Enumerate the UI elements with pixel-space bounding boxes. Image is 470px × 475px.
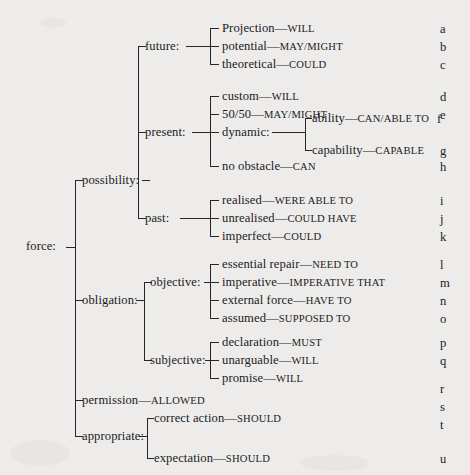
letter-s: s <box>440 400 445 415</box>
em-dash: — <box>267 39 280 53</box>
em-dash: — <box>213 451 226 465</box>
leaf-i-modal: WERE ABLE TO <box>275 195 354 206</box>
subjective-tick-q <box>210 360 219 361</box>
leaf-h: no obstacle—CAN <box>222 160 316 173</box>
subjective-tick-p <box>210 342 219 343</box>
node-possibility: possibility: <box>82 174 139 187</box>
leaf-r-term: promise <box>222 371 263 385</box>
leaf-n-term: external force <box>222 293 293 307</box>
em-dash: — <box>363 143 376 157</box>
appropriate-tick-u <box>147 458 154 459</box>
leaf-l-modal: NEED TO <box>312 259 358 270</box>
subjective-tick-r <box>210 378 219 379</box>
leaf-f: ability—CAN/ABLE TO <box>312 112 429 125</box>
leaf-j: unrealised—COULD HAVE <box>222 212 357 225</box>
em-dash: — <box>271 229 284 243</box>
objective-tick-l <box>210 264 219 265</box>
leaf-c: theoretical—COULD <box>222 58 326 71</box>
leaf-i: realised—WERE ABLE TO <box>222 194 353 207</box>
em-dash: — <box>279 353 292 367</box>
leaf-a-modal: WILL <box>287 23 314 34</box>
leaf-p: declaration—MUST <box>222 336 322 349</box>
leaf-a-term: Projection <box>222 21 275 35</box>
leaf-g-term: capability <box>312 143 363 157</box>
past-tick-k <box>210 236 219 237</box>
node-permission-modal: ALLOWED <box>151 395 205 406</box>
letter-d: d <box>440 90 446 105</box>
leaf-q-modal: WILL <box>291 355 318 366</box>
dynamic-lead <box>272 132 305 133</box>
leaf-b-modal: MAY/MIGHT <box>280 41 343 52</box>
leaf-g-modal: CAPABLE <box>375 145 424 156</box>
letter-l: l <box>440 258 444 273</box>
present-tick-dynamic <box>210 132 219 133</box>
leaf-h-modal: CAN <box>293 161 316 172</box>
objective-tick-o <box>210 318 219 319</box>
future-lead <box>186 46 210 47</box>
em-dash: — <box>138 393 151 407</box>
em-dash: — <box>262 193 275 207</box>
leaf-k-modal: COULD <box>284 231 322 242</box>
leaf-u-modal: SHOULD <box>226 453 270 464</box>
leaf-k: imperfect—COULD <box>222 230 321 243</box>
leaf-m: imperative—IMPERATIVE THAT <box>222 276 385 289</box>
present-lead <box>192 132 210 133</box>
objective-bracket <box>210 264 211 318</box>
past-lead <box>180 218 210 219</box>
letter-g: g <box>440 144 446 159</box>
letter-i: i <box>440 194 444 209</box>
node-objective: objective: <box>150 276 201 289</box>
obligation-trunk <box>144 282 145 360</box>
em-dash: — <box>259 89 272 103</box>
leaf-d-term: custom <box>222 89 259 103</box>
present-bracket <box>210 96 211 166</box>
em-dash: — <box>277 275 290 289</box>
em-dash: — <box>263 371 276 385</box>
letter-a: a <box>440 22 446 37</box>
leaf-c-modal: COULD <box>289 59 327 70</box>
node-appropriate: appropriate: <box>82 430 144 443</box>
letter-p: p <box>440 336 446 351</box>
leaf-a: Projection—WILL <box>222 22 315 35</box>
dynamic-tick-g <box>305 150 312 151</box>
scan-artifact <box>300 455 370 471</box>
letter-u: u <box>440 452 446 467</box>
leaf-p-term: declaration <box>222 335 279 349</box>
leaf-m-modal: IMPERATIVE THAT <box>290 277 386 288</box>
objective-tick-m <box>210 282 219 283</box>
leaf-f-term: ability <box>312 111 345 125</box>
leaf-j-modal: COULD HAVE <box>287 213 356 224</box>
leaf-g: capability—CAPABLE <box>312 144 424 157</box>
node-future: future: <box>145 40 179 53</box>
appropriate-connector <box>139 436 147 437</box>
node-obligation: obligation: <box>82 294 138 307</box>
letter-t: t <box>440 418 444 433</box>
letter-n: n <box>440 294 446 309</box>
letter-q: q <box>440 354 446 369</box>
leaf-p-modal: MUST <box>292 337 322 348</box>
em-dash: — <box>276 57 289 71</box>
letter-c: c <box>440 58 446 73</box>
node-permission-label: permission <box>82 393 138 407</box>
em-dash: — <box>345 111 358 125</box>
dynamic-bracket <box>305 118 306 150</box>
letter-h: h <box>440 160 446 175</box>
em-dash: — <box>251 107 264 121</box>
leaf-i-term: realised <box>222 193 262 207</box>
future-tick-c <box>210 64 219 65</box>
letter-m: m <box>440 276 450 291</box>
objective-tick-n <box>210 300 219 301</box>
leaf-b: potential—MAY/MIGHT <box>222 40 343 53</box>
letter-j: j <box>440 212 444 227</box>
leaf-l-term: essential repair <box>222 257 299 271</box>
em-dash: — <box>299 257 312 271</box>
leaf-n-modal: HAVE TO <box>306 295 352 306</box>
possibility-connector <box>142 180 150 181</box>
future-tick-b <box>210 46 219 47</box>
letter-r: r <box>440 382 444 397</box>
letter-f: f <box>437 112 441 127</box>
em-dash: — <box>293 293 306 307</box>
obligation-connector <box>136 300 144 301</box>
leaf-t-term: correct action <box>154 411 224 425</box>
present-tick-h <box>210 166 219 167</box>
